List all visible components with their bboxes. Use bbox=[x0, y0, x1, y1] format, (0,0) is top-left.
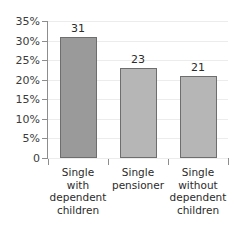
bar bbox=[60, 37, 97, 158]
category-label-line: dependent bbox=[162, 191, 234, 204]
y-axis-tick-label: 30% bbox=[0, 35, 40, 46]
x-axis-tick-mark bbox=[48, 159, 49, 165]
bar bbox=[120, 68, 157, 158]
x-axis-tick-mark bbox=[168, 159, 169, 165]
y-axis-tick-mark bbox=[42, 138, 48, 139]
y-axis-tick-label: 35% bbox=[0, 16, 40, 27]
y-axis-tick-mark bbox=[42, 60, 48, 61]
y-axis-tick-label: 5% bbox=[0, 133, 40, 144]
gridline bbox=[48, 158, 228, 159]
y-axis-tick-mark bbox=[42, 119, 48, 120]
y-axis-tick-label: 20% bbox=[0, 74, 40, 85]
y-axis-labels: 05%10%15%20%25%30%35% bbox=[0, 0, 40, 225]
category-label-line: children bbox=[162, 204, 234, 217]
x-axis-tick-mark bbox=[108, 159, 109, 165]
y-axis-tick-label: 25% bbox=[0, 55, 40, 66]
y-axis-tick-mark bbox=[42, 99, 48, 100]
category-label-line: dependent bbox=[42, 191, 114, 204]
category-label-line: without bbox=[162, 179, 234, 192]
x-axis-tick-mark bbox=[228, 159, 229, 165]
bar-value-label: 31 bbox=[48, 23, 108, 34]
y-axis-tick-mark bbox=[42, 80, 48, 81]
category-label-line: children bbox=[42, 204, 114, 217]
x-axis-category-labels: SinglewithdependentchildrenSinglepension… bbox=[48, 166, 228, 224]
bar-value-label: 21 bbox=[168, 62, 228, 73]
y-axis-tick-label: 10% bbox=[0, 113, 40, 124]
y-axis-tick-label: 15% bbox=[0, 94, 40, 105]
y-axis-tick-label: 0 bbox=[0, 153, 40, 164]
bar-value-label: 23 bbox=[108, 54, 168, 65]
plot-area bbox=[48, 21, 228, 158]
y-axis-tick-mark bbox=[42, 41, 48, 42]
bar bbox=[180, 76, 217, 158]
category-label-line: Single bbox=[162, 166, 234, 179]
x-axis-category-label: Singlewithoutdependentchildren bbox=[162, 166, 234, 216]
bar-chart: 05%10%15%20%25%30%35% Singlewithdependen… bbox=[0, 0, 245, 225]
